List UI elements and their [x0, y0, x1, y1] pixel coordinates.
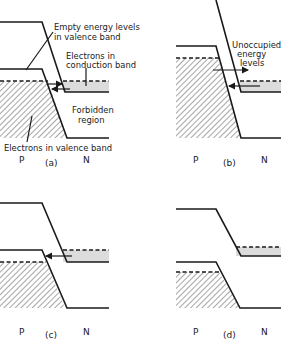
panel-caption: (c): [45, 330, 57, 340]
label-p-side: P: [19, 155, 25, 165]
label-empty-energy-levels: Empty energy levels: [54, 22, 140, 32]
label-n-side: N: [83, 327, 90, 337]
pointer-empty-levels: [26, 32, 53, 70]
panel-b: Unoccupied energy levels P (b) N: [176, 0, 281, 168]
label-p-side: P: [193, 327, 199, 337]
label-forbidden: Forbidden: [72, 105, 114, 115]
conduction-electrons-band: [236, 247, 281, 256]
label-conduction-band: conduction band: [66, 60, 136, 70]
label-electrons-in-valence-band: Electrons in valence band: [4, 143, 112, 153]
label-n-side: N: [83, 155, 90, 165]
label-p-side: P: [19, 327, 25, 337]
panel-c: P (c) N: [0, 203, 109, 340]
valence-electrons-hatched-region: [0, 262, 65, 308]
label-n-side: N: [261, 155, 268, 165]
panel-caption: (d): [223, 330, 236, 340]
panel-caption: (b): [223, 158, 236, 168]
label-levels: levels: [240, 58, 264, 68]
label-n-side: N: [261, 327, 268, 337]
panel-a: Empty energy levels in valence band Elec…: [0, 22, 140, 168]
label-region: region: [78, 115, 105, 125]
panel-caption: (a): [45, 158, 58, 168]
label-p-side: P: [193, 155, 199, 165]
label-in-valence-band: in valence band: [54, 32, 121, 42]
panel-d: P (d) N: [176, 209, 281, 340]
pn-junction-band-diagram: Empty energy levels in valence band Elec…: [0, 0, 286, 342]
